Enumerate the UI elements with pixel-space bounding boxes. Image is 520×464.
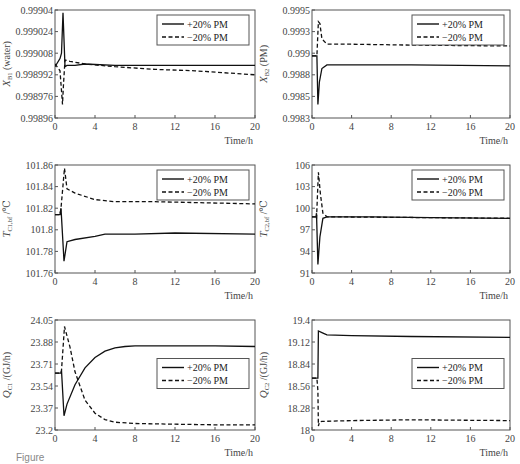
y-axis-label: TC2,bf /℃ [257, 200, 270, 237]
x-tick-label: 16 [210, 433, 220, 444]
x-tick-label: 12 [170, 433, 180, 444]
x-tick-label: 20 [505, 276, 515, 287]
x-axis-label: Time/h [479, 135, 508, 146]
y-tick-label: 0.999008 [16, 48, 54, 59]
x-axis-label: Time/h [479, 290, 508, 301]
x-tick-label: 0 [310, 433, 315, 444]
y-axis-label: QC2 /(GJ/h) [257, 352, 270, 398]
y-tick-label: 18.28 [288, 403, 311, 414]
x-axis-label: Time/h [224, 135, 253, 146]
y-tick-label: 101.84 [26, 181, 54, 192]
legend: +20% PM−20% PM [412, 170, 504, 200]
x-tick-label: 12 [170, 276, 180, 287]
chart-qc1: 04812162023.223.3723.5423.7123.8824.05Ti… [0, 315, 260, 459]
y-tick-label: 97 [300, 224, 310, 235]
y-tick-label: 23.2 [36, 425, 54, 436]
legend-label: −20% PM [442, 375, 483, 386]
y-tick-label: 18.56 [288, 381, 311, 392]
x-tick-label: 0 [53, 433, 58, 444]
x-tick-label: 8 [389, 276, 394, 287]
x-tick-label: 20 [505, 433, 515, 444]
y-tick-label: 23.37 [31, 403, 54, 414]
y-tick-label: 24.05 [31, 315, 54, 326]
legend-label: −20% PM [187, 187, 228, 198]
legend-label: +20% PM [187, 362, 228, 373]
y-tick-label: 0.9993 [283, 26, 311, 37]
legend-label: +20% PM [187, 174, 228, 185]
x-tick-label: 20 [250, 276, 260, 287]
x-tick-label: 4 [93, 276, 98, 287]
x-tick-label: 16 [465, 433, 475, 444]
legend-label: −20% PM [442, 187, 483, 198]
y-axis-label: XB2 (PM) [257, 45, 270, 84]
legend-label: +20% PM [187, 19, 228, 30]
y-tick-label: 19.4 [293, 315, 311, 326]
y-tick-label: 101.78 [26, 246, 54, 257]
x-tick-label: 8 [133, 433, 138, 444]
x-tick-label: 0 [310, 121, 315, 132]
figure-panel-grid: 0481216200.998960.9989760.9989920.999008… [0, 0, 520, 464]
y-tick-label: 0.99904 [21, 5, 54, 16]
x-axis-label: Time/h [479, 447, 508, 458]
y-tick-label: 0.9995 [283, 5, 311, 16]
legend: +20% PM−20% PM [157, 359, 249, 389]
chart-tc2: 048121620919497100103106Time/hTC2,bf /℃+… [257, 160, 515, 302]
y-tick-label: 100 [295, 203, 310, 214]
y-tick-label: 18 [300, 425, 310, 436]
x-tick-label: 12 [426, 433, 436, 444]
chart-xb1: 0481216200.998960.9989760.9989920.999008… [0, 5, 260, 147]
y-tick-label: 23.88 [31, 337, 54, 348]
chart-xb2: 0481216200.99830.99850.99880.9990.99930.… [257, 5, 515, 147]
x-tick-label: 16 [465, 276, 475, 287]
y-tick-label: 19.12 [288, 337, 311, 348]
x-tick-label: 12 [426, 276, 436, 287]
legend-label: −20% PM [187, 375, 228, 386]
x-tick-label: 4 [349, 433, 354, 444]
x-tick-label: 0 [53, 276, 58, 287]
x-tick-label: 20 [505, 121, 515, 132]
x-axis-label: Time/h [224, 290, 253, 301]
y-tick-label: 0.9988 [283, 69, 311, 80]
x-axis-label: Time/h [224, 447, 253, 458]
y-tick-label: 23.71 [31, 359, 54, 370]
x-tick-label: 8 [133, 276, 138, 287]
legend-label: +20% PM [442, 174, 483, 185]
y-tick-label: 101.76 [26, 268, 54, 279]
legend: +20% PM−20% PM [157, 15, 249, 45]
y-tick-label: 0.9983 [283, 113, 311, 124]
x-tick-label: 12 [170, 121, 180, 132]
x-tick-label: 0 [310, 276, 315, 287]
x-tick-label: 12 [426, 121, 436, 132]
chart-tc1: 048121620101.76101.78101.8101.82101.8410… [0, 160, 260, 302]
x-tick-label: 0 [53, 121, 58, 132]
y-axis-label: QC1 /(GJ/h) [0, 352, 13, 398]
x-tick-label: 8 [389, 121, 394, 132]
y-tick-label: 91 [300, 268, 310, 279]
x-tick-label: 8 [133, 121, 138, 132]
y-tick-label: 0.99896 [21, 113, 54, 124]
series-plus-20-line [312, 213, 510, 264]
y-tick-label: 0.998992 [16, 69, 54, 80]
x-tick-label: 8 [389, 433, 394, 444]
figure-caption: Figure [16, 452, 44, 463]
y-tick-label: 18.84 [288, 359, 311, 370]
series-plus-20-line [312, 56, 510, 105]
y-axis-label: TC1,bf /℃ [0, 200, 13, 237]
legend-label: +20% PM [442, 362, 483, 373]
legend-label: +20% PM [442, 19, 483, 30]
legend: +20% PM−20% PM [157, 170, 249, 200]
series-minus-20-line [55, 60, 255, 105]
x-tick-label: 20 [250, 433, 260, 444]
y-axis-label: XB1 (water) [0, 41, 13, 88]
y-tick-label: 0.999 [288, 48, 311, 59]
x-tick-label: 16 [465, 121, 475, 132]
legend: +20% PM−20% PM [412, 359, 504, 389]
x-tick-label: 4 [93, 433, 98, 444]
x-tick-label: 4 [93, 121, 98, 132]
y-tick-label: 0.998976 [16, 91, 54, 102]
y-tick-label: 23.54 [31, 381, 54, 392]
chart-qc2: 0481216201818.2818.5618.8419.1219.4Time/… [257, 315, 515, 459]
y-tick-label: 101.8 [31, 224, 54, 235]
y-tick-label: 103 [295, 181, 310, 192]
x-tick-label: 16 [210, 276, 220, 287]
